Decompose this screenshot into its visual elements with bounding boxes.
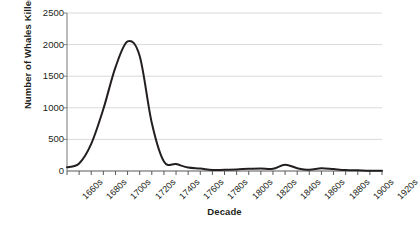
x-tick-label: 1700s bbox=[129, 177, 153, 201]
x-tick-label: 1780s bbox=[226, 177, 250, 201]
x-tick-label: 1760s bbox=[201, 177, 225, 201]
x-tick-label: 1880s bbox=[347, 177, 371, 201]
x-tick-label: 1820s bbox=[274, 177, 298, 201]
x-tick-label: 1740s bbox=[177, 177, 201, 201]
x-tick-label: 1840s bbox=[298, 177, 322, 201]
x-tick-label: 1920s bbox=[395, 177, 419, 201]
x-tick-label: 1900s bbox=[371, 177, 395, 201]
x-tick-label: 1680s bbox=[104, 177, 128, 201]
x-tick-label: 1800s bbox=[250, 177, 274, 201]
x-tick-label: 1860s bbox=[322, 177, 346, 201]
x-tick-label: 1720s bbox=[153, 177, 177, 201]
x-axis-title: Decade bbox=[67, 206, 382, 217]
x-tick-label: 1660s bbox=[80, 177, 104, 201]
